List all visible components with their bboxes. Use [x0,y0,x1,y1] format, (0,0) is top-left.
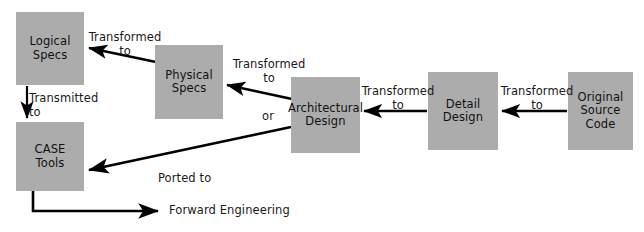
node-architectural-design[interactable]: Architectural Design [291,77,360,153]
edge-label-architectural-to-physical: Transformed to [228,58,310,85]
node-case-tools[interactable]: CASE Tools [16,122,84,191]
edge-label-detail-to-architectural: Transformed to [358,85,438,112]
edge-label-architectural-to-case: Ported to [158,172,228,186]
edge-label-logical-to-case: Transmitted to [29,92,107,119]
node-logical-specs[interactable]: Logical Specs [16,12,84,85]
node-case-tools-label: CASE Tools [35,143,66,170]
node-logical-specs-label: Logical Specs [29,35,70,62]
node-original-source-code[interactable]: Original Source Code [568,72,633,150]
arrow-architectural-to-physical [227,85,292,99]
arrow-architectural-to-case [89,127,291,170]
edge-label-source-to-detail: Transformed to [497,85,577,112]
node-original-source-code-label: Original Source Code [578,91,624,132]
node-architectural-design-label: Architectural Design [288,102,363,129]
edge-label-architectural-or: or [258,110,278,124]
arrow-forward-engineering [33,191,158,211]
node-detail-design[interactable]: Detail Design [428,72,498,150]
edge-label-forward-engineering: Forward Engineering [169,204,329,218]
diagram-canvas: Logical Specs CASE Tools Physical Specs … [0,0,644,232]
node-physical-specs-label: Physical Specs [165,69,213,96]
edge-label-physical-to-logical: Transformed to [84,31,166,58]
node-detail-design-label: Detail Design [443,98,483,125]
